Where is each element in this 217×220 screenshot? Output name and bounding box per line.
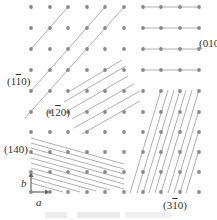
lattice-point [29, 89, 33, 93]
lattice-diagram [0, 0, 217, 220]
lattice-point [122, 26, 126, 30]
lattice-point [122, 130, 126, 134]
plane-1m10-line [25, 7, 124, 118]
lattice-point [48, 170, 52, 174]
lattice-point [85, 130, 89, 134]
lattice-point [122, 150, 126, 154]
lattice-point [48, 47, 52, 51]
label-text: 0) [21, 75, 30, 87]
lattice-point [159, 68, 163, 72]
lattice-point [103, 68, 107, 72]
lattice-point [85, 89, 89, 93]
lattice-point [85, 26, 89, 30]
lattice-point [66, 26, 70, 30]
plane-140-line [31, 173, 96, 191]
lattice-point [159, 110, 163, 114]
lattice-point [178, 47, 182, 51]
lattice-point [29, 110, 33, 114]
lattice-point [122, 5, 126, 9]
plane-1m20-line [70, 60, 122, 91]
label-plane-1m10: (110) [7, 75, 30, 87]
lattice-point [141, 68, 145, 72]
lattice-point [66, 170, 70, 174]
plane-1m20-line [82, 101, 140, 134]
lattice-point [85, 170, 89, 174]
lattice-point [141, 130, 145, 134]
label-text: (1 [7, 75, 16, 87]
lattice-point [178, 89, 182, 93]
lattice-point [29, 150, 33, 154]
figure-caption [45, 212, 170, 218]
lattice-point [178, 5, 182, 9]
lattice-point [48, 130, 52, 134]
lattice-point [66, 130, 70, 134]
lattice-point [103, 26, 107, 30]
lattice-point [178, 110, 182, 114]
lattice-point [122, 170, 126, 174]
label-axis-b: b [21, 177, 27, 189]
lattice-point [197, 110, 201, 114]
plane-3m10-line [161, 90, 192, 193]
lattice-point [66, 89, 70, 93]
plane-140-line [31, 158, 124, 184]
lattice-point [122, 190, 126, 194]
lattice-point [66, 68, 70, 72]
lattice-point [159, 89, 163, 93]
lattice-point [85, 5, 89, 9]
lattice-point [141, 190, 145, 194]
label-text: (1 [46, 106, 55, 118]
lattice-point [103, 5, 107, 9]
lattice-point [66, 47, 70, 51]
lattice-point [103, 110, 107, 114]
lattice-point [29, 68, 33, 72]
label-text: (3 [163, 199, 172, 211]
plane-140-line [31, 143, 124, 169]
lattice-point [178, 68, 182, 72]
plane-1m20-line [66, 76, 128, 112]
label-plane-3m10: (310) [163, 199, 187, 211]
lattice-point [66, 190, 70, 194]
plane-3m10-line [186, 150, 199, 193]
label-plane-010: (010 [199, 37, 217, 49]
lattice-point [48, 68, 52, 72]
plane-3m10-line [130, 90, 161, 193]
lattice-point [29, 26, 33, 30]
lattice-point [48, 5, 52, 9]
lattice-point [141, 150, 145, 154]
lattice-point [29, 130, 33, 134]
lattice-point [85, 68, 89, 72]
lattice-point [103, 170, 107, 174]
lattice-point [48, 89, 52, 93]
plane-140-line [31, 148, 124, 174]
lattice-point [197, 190, 201, 194]
lattice-point [141, 110, 145, 114]
plane-140-line [31, 138, 124, 164]
plane-1m20-line [74, 91, 140, 128]
plane-3m10-line [180, 130, 199, 193]
plane-1m20-line [64, 66, 126, 102]
lattice-point [85, 150, 89, 154]
label-text: 0) [178, 199, 187, 211]
lattice-point [122, 89, 126, 93]
lattice-point [29, 170, 33, 174]
plane-lines [25, 7, 199, 195]
lattice-point [178, 26, 182, 30]
lattice-point [159, 190, 163, 194]
lattice-point [85, 47, 89, 51]
lattice-point [197, 150, 201, 154]
lattice-point [29, 190, 33, 194]
plane-3m10-line [168, 90, 199, 193]
lattice-point [197, 89, 201, 93]
lattice-point [159, 47, 163, 51]
lattice-point [141, 47, 145, 51]
lattice-point [159, 150, 163, 154]
lattice-point [141, 5, 145, 9]
plane-3m10-line [137, 90, 168, 193]
lattice-point [85, 110, 89, 114]
lattice-point [48, 190, 52, 194]
lattice-point [141, 89, 145, 93]
label-plane-140: (140) [4, 143, 28, 155]
lattice-point [48, 26, 52, 30]
lattice-point [85, 190, 89, 194]
label-text: 0) [61, 106, 70, 118]
